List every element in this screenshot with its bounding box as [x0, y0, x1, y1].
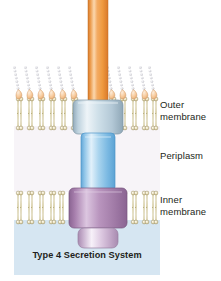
cytoplasmic-base — [78, 228, 118, 248]
inner-membrane-complex — [69, 188, 127, 228]
t4ss-diagram: Outer membrane Periplasm Inner membrane … — [0, 0, 221, 281]
pilus — [88, 0, 108, 106]
inner-membrane-left — [16, 191, 65, 224]
outer-membrane-left — [13, 66, 78, 130]
lps-chains-right — [106, 66, 157, 99]
label-outer-membrane: Outer membrane — [160, 99, 206, 122]
figure-caption: Type 4 Secretion System — [14, 250, 160, 260]
outer-membrane-channel — [73, 100, 123, 134]
lps-chains-left — [13, 66, 77, 99]
label-inner-membrane: Inner membrane — [160, 194, 206, 217]
periplasmic-channel — [81, 133, 115, 191]
label-periplasm: Periplasm — [160, 150, 203, 162]
diagram-canvas — [0, 0, 221, 281]
